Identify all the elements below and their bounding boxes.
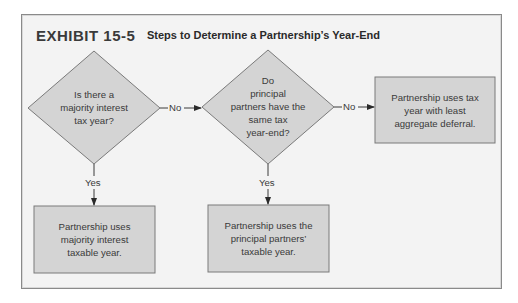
outcome-principal-partners-text: Partnership uses the principal partners’… (208, 219, 329, 258)
outcome-majority-interest-text: Partnership uses majority interest taxab… (34, 220, 155, 259)
edge-label-d1-no: No (168, 102, 182, 113)
outcome-least-deferral-text: Partnership uses tax year with least agg… (375, 91, 495, 130)
edge-label-d2-yes: Yes (258, 177, 276, 188)
decision-2-text: Do principal partners have the same tax … (213, 74, 323, 139)
decision-1-text: Is there a majority interest tax year? (44, 88, 144, 127)
edge-label-d2-no: No (342, 101, 356, 112)
edge-label-d1-yes: Yes (84, 177, 102, 188)
